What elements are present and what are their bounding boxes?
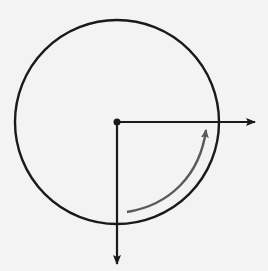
rotation-diagram [0,0,268,271]
rotation-arrow [127,130,206,212]
center-point [114,119,121,126]
